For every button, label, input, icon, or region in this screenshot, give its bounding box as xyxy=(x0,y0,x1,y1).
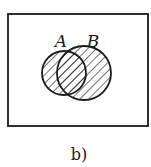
figure-caption: b) xyxy=(71,145,87,164)
venn-diagram: A B b) xyxy=(0,0,151,167)
set-a-label: A xyxy=(53,31,67,51)
set-b-label: B xyxy=(86,31,100,51)
